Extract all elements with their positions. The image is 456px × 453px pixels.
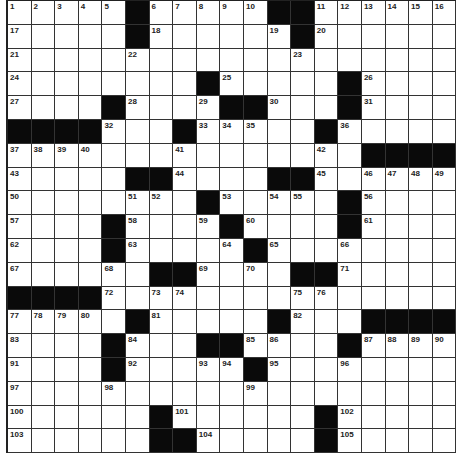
letter-cell[interactable] bbox=[291, 144, 315, 168]
letter-cell[interactable]: 99 bbox=[244, 382, 268, 406]
letter-cell[interactable]: 15 bbox=[409, 1, 433, 25]
letter-cell[interactable] bbox=[362, 358, 386, 382]
letter-cell[interactable]: 40 bbox=[79, 144, 103, 168]
letter-cell[interactable] bbox=[150, 49, 174, 73]
letter-cell[interactable]: 29 bbox=[197, 96, 221, 120]
letter-cell[interactable] bbox=[291, 429, 315, 453]
letter-cell[interactable] bbox=[244, 310, 268, 334]
letter-cell[interactable] bbox=[197, 144, 221, 168]
letter-cell[interactable]: 18 bbox=[150, 25, 174, 49]
letter-cell[interactable] bbox=[32, 334, 56, 358]
letter-cell[interactable] bbox=[386, 215, 410, 239]
letter-cell[interactable]: 23 bbox=[291, 49, 315, 73]
letter-cell[interactable] bbox=[362, 239, 386, 263]
letter-cell[interactable]: 31 bbox=[362, 96, 386, 120]
letter-cell[interactable]: 46 bbox=[362, 168, 386, 192]
letter-cell[interactable] bbox=[409, 215, 433, 239]
letter-cell[interactable]: 52 bbox=[150, 191, 174, 215]
letter-cell[interactable] bbox=[102, 406, 126, 430]
letter-cell[interactable] bbox=[150, 334, 174, 358]
letter-cell[interactable] bbox=[32, 263, 56, 287]
letter-cell[interactable] bbox=[433, 263, 456, 287]
letter-cell[interactable] bbox=[268, 144, 292, 168]
letter-cell[interactable]: 13 bbox=[362, 1, 386, 25]
letter-cell[interactable]: 58 bbox=[126, 215, 150, 239]
letter-cell[interactable] bbox=[433, 406, 456, 430]
letter-cell[interactable]: 20 bbox=[315, 25, 339, 49]
letter-cell[interactable] bbox=[173, 96, 197, 120]
letter-cell[interactable]: 65 bbox=[268, 239, 292, 263]
letter-cell[interactable] bbox=[55, 358, 79, 382]
letter-cell[interactable] bbox=[79, 429, 103, 453]
letter-cell[interactable]: 19 bbox=[268, 25, 292, 49]
letter-cell[interactable]: 8 bbox=[197, 1, 221, 25]
letter-cell[interactable] bbox=[433, 429, 456, 453]
letter-cell[interactable] bbox=[79, 406, 103, 430]
letter-cell[interactable] bbox=[362, 49, 386, 73]
letter-cell[interactable] bbox=[173, 382, 197, 406]
letter-cell[interactable]: 60 bbox=[244, 215, 268, 239]
letter-cell[interactable]: 12 bbox=[338, 1, 362, 25]
letter-cell[interactable] bbox=[102, 310, 126, 334]
letter-cell[interactable] bbox=[220, 310, 244, 334]
letter-cell[interactable]: 47 bbox=[386, 168, 410, 192]
letter-cell[interactable] bbox=[386, 72, 410, 96]
letter-cell[interactable]: 85 bbox=[244, 334, 268, 358]
letter-cell[interactable] bbox=[55, 168, 79, 192]
letter-cell[interactable] bbox=[79, 263, 103, 287]
letter-cell[interactable] bbox=[291, 382, 315, 406]
letter-cell[interactable] bbox=[244, 144, 268, 168]
letter-cell[interactable]: 41 bbox=[173, 144, 197, 168]
letter-cell[interactable]: 101 bbox=[173, 406, 197, 430]
letter-cell[interactable]: 3 bbox=[55, 1, 79, 25]
letter-cell[interactable]: 27 bbox=[8, 96, 32, 120]
letter-cell[interactable]: 69 bbox=[197, 263, 221, 287]
letter-cell[interactable] bbox=[244, 191, 268, 215]
letter-cell[interactable] bbox=[79, 239, 103, 263]
letter-cell[interactable]: 75 bbox=[291, 287, 315, 311]
letter-cell[interactable] bbox=[32, 168, 56, 192]
letter-cell[interactable]: 80 bbox=[79, 310, 103, 334]
letter-cell[interactable]: 6 bbox=[150, 1, 174, 25]
letter-cell[interactable]: 74 bbox=[173, 287, 197, 311]
letter-cell[interactable] bbox=[220, 49, 244, 73]
letter-cell[interactable] bbox=[433, 191, 456, 215]
letter-cell[interactable] bbox=[409, 287, 433, 311]
letter-cell[interactable] bbox=[433, 215, 456, 239]
letter-cell[interactable] bbox=[315, 382, 339, 406]
letter-cell[interactable] bbox=[55, 72, 79, 96]
letter-cell[interactable]: 89 bbox=[409, 334, 433, 358]
letter-cell[interactable] bbox=[55, 96, 79, 120]
letter-cell[interactable]: 62 bbox=[8, 239, 32, 263]
letter-cell[interactable]: 21 bbox=[8, 49, 32, 73]
letter-cell[interactable] bbox=[315, 334, 339, 358]
letter-cell[interactable] bbox=[268, 215, 292, 239]
letter-cell[interactable] bbox=[220, 168, 244, 192]
letter-cell[interactable] bbox=[291, 120, 315, 144]
letter-cell[interactable] bbox=[32, 72, 56, 96]
letter-cell[interactable] bbox=[433, 96, 456, 120]
letter-cell[interactable] bbox=[126, 287, 150, 311]
letter-cell[interactable] bbox=[433, 72, 456, 96]
letter-cell[interactable] bbox=[315, 215, 339, 239]
letter-cell[interactable]: 37 bbox=[8, 144, 32, 168]
letter-cell[interactable]: 61 bbox=[362, 215, 386, 239]
letter-cell[interactable]: 76 bbox=[315, 287, 339, 311]
letter-cell[interactable] bbox=[338, 144, 362, 168]
letter-cell[interactable]: 105 bbox=[338, 429, 362, 453]
letter-cell[interactable] bbox=[386, 49, 410, 73]
letter-cell[interactable]: 64 bbox=[220, 239, 244, 263]
letter-cell[interactable] bbox=[362, 263, 386, 287]
letter-cell[interactable]: 87 bbox=[362, 334, 386, 358]
letter-cell[interactable] bbox=[55, 429, 79, 453]
letter-cell[interactable] bbox=[55, 49, 79, 73]
letter-cell[interactable] bbox=[386, 406, 410, 430]
letter-cell[interactable]: 82 bbox=[291, 310, 315, 334]
letter-cell[interactable] bbox=[220, 25, 244, 49]
letter-cell[interactable] bbox=[315, 72, 339, 96]
letter-cell[interactable] bbox=[150, 144, 174, 168]
letter-cell[interactable] bbox=[315, 239, 339, 263]
letter-cell[interactable] bbox=[315, 49, 339, 73]
letter-cell[interactable] bbox=[126, 429, 150, 453]
letter-cell[interactable]: 11 bbox=[315, 1, 339, 25]
